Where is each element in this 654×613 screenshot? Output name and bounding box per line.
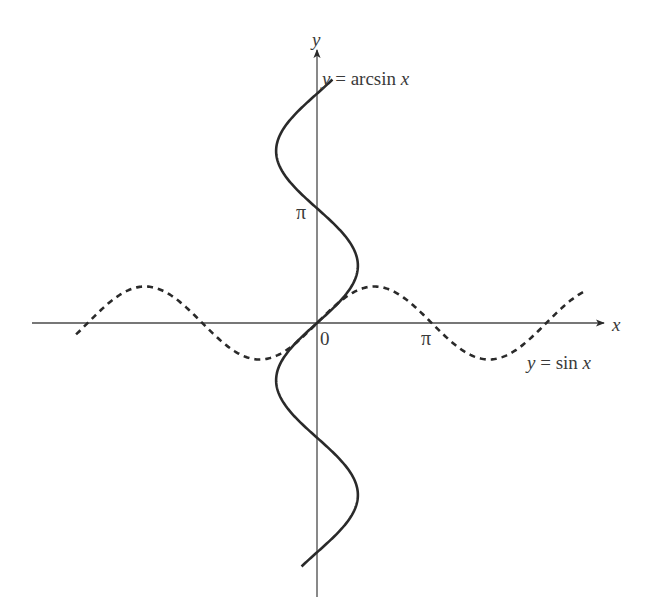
x-tick-pi-label: π (421, 327, 431, 349)
origin-label: 0 (320, 328, 330, 349)
x-axis-label: x (611, 314, 621, 335)
sin-curve-label: y = sin x (525, 352, 592, 373)
arcsin-sin-graph: y x 0 π π y = arcsin x y = sin x (0, 0, 654, 613)
y-axis-label: y (310, 29, 321, 50)
y-tick-pi-label: π (296, 201, 306, 223)
arcsin-curve-label: y = arcsin x (320, 68, 410, 89)
